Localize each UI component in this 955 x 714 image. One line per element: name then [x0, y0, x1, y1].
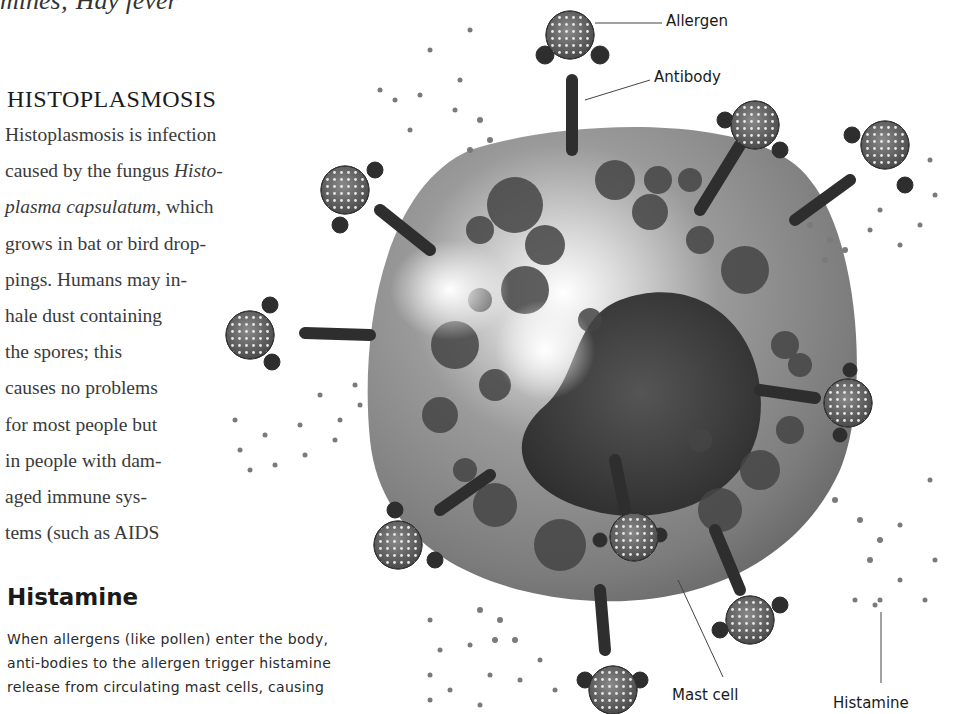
mast-cell-label: Mast cell: [672, 686, 738, 704]
antibody-right-upper: [795, 121, 913, 220]
mast-cell-illustration: [0, 0, 955, 714]
histamine-label: Histamine: [833, 694, 909, 712]
allergen-label: Allergen: [666, 12, 728, 30]
antibody-bottom: [577, 590, 648, 714]
antibody-label: Antibody: [654, 68, 721, 86]
antibody-left: [226, 297, 370, 370]
